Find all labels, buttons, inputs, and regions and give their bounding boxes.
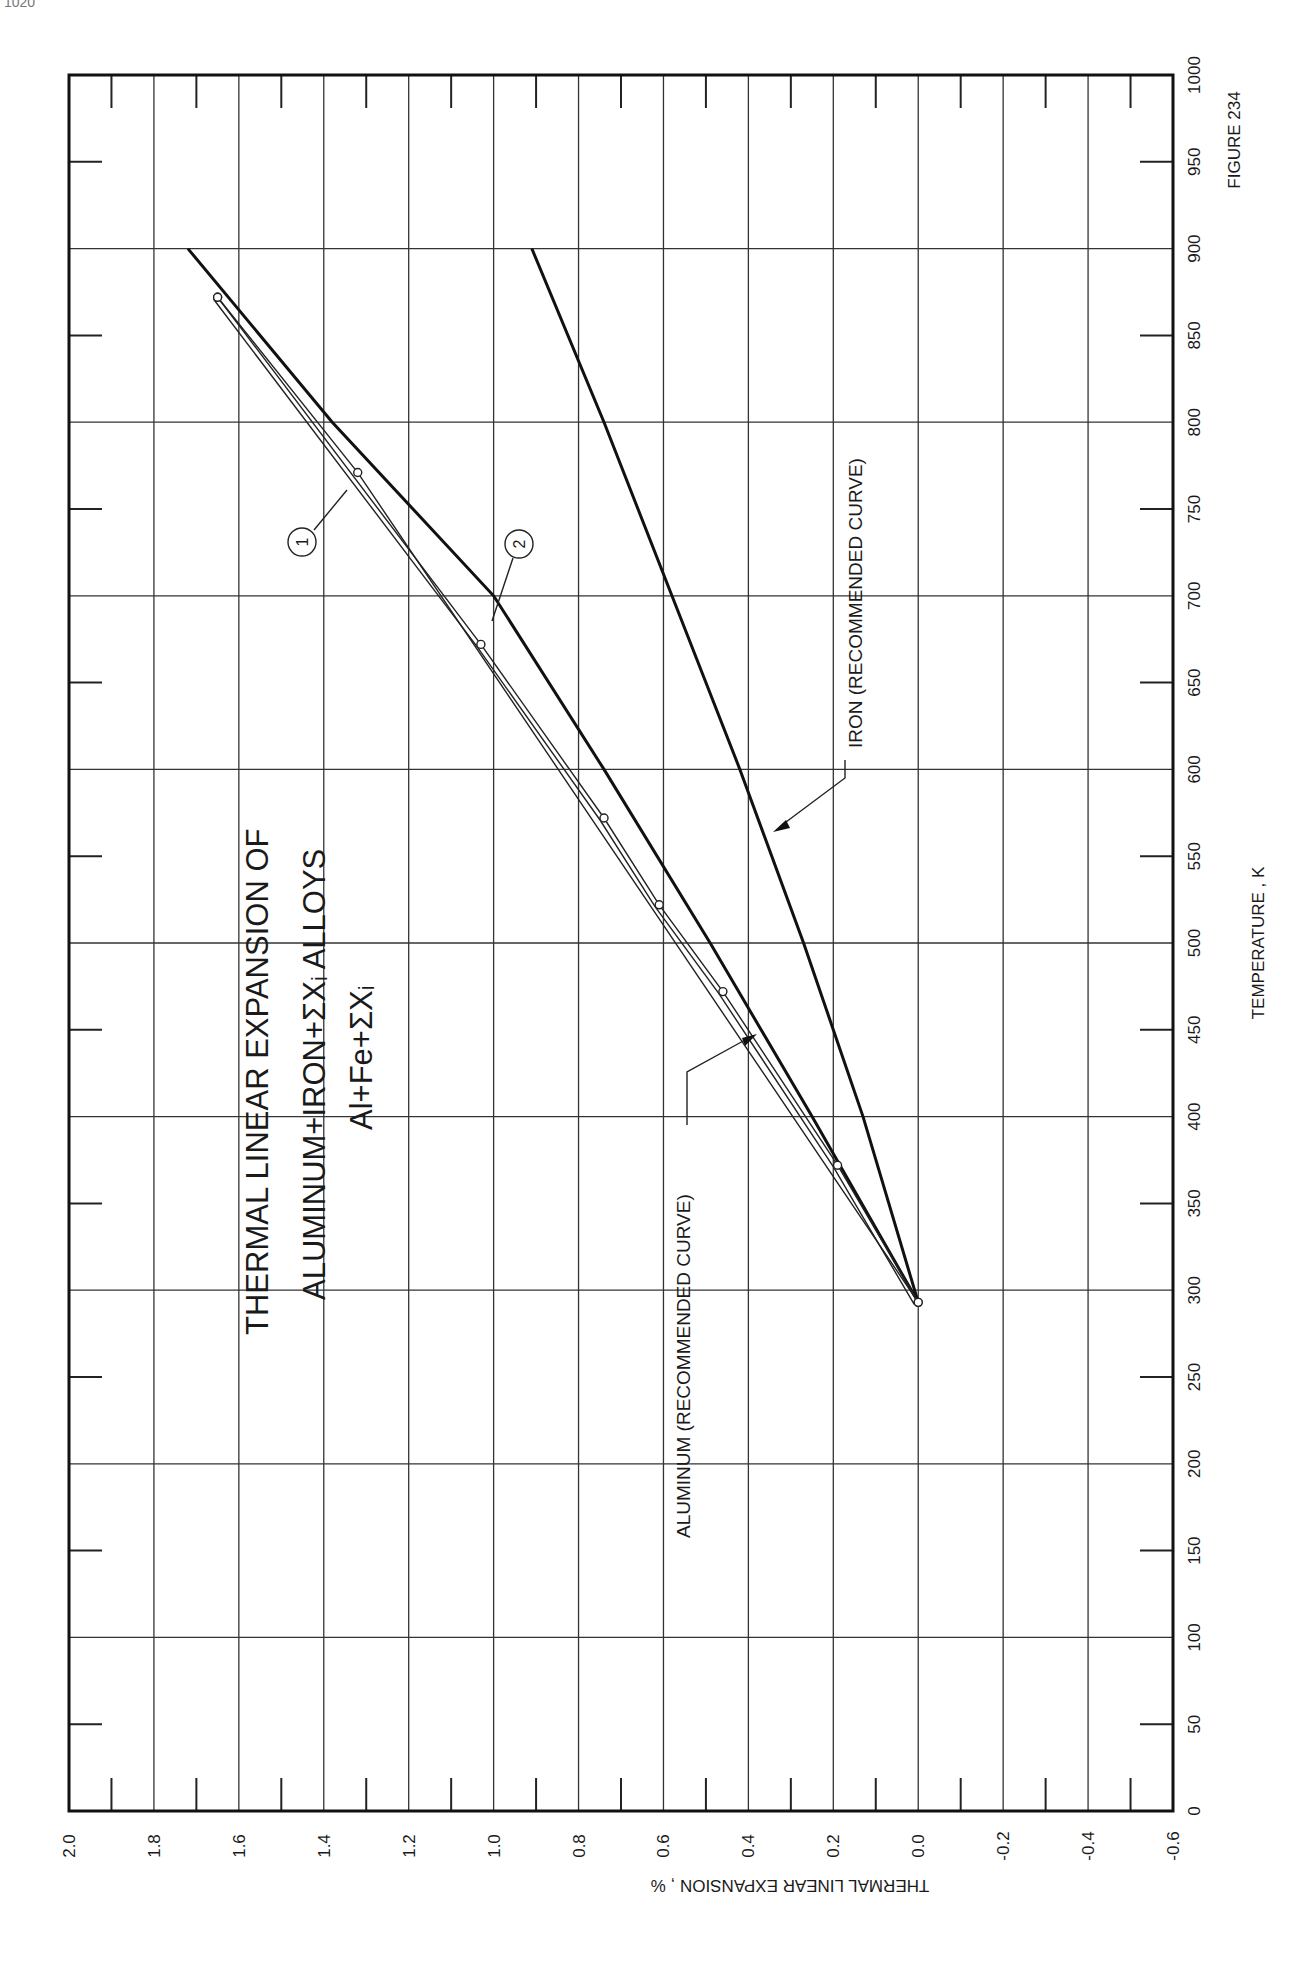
x-tick-label: 600	[1185, 755, 1204, 783]
data-point-marker	[655, 901, 663, 909]
x-tick-label: 900	[1185, 234, 1204, 262]
x-tick-label: 300	[1185, 1276, 1204, 1304]
x-tick-label: 50	[1185, 1715, 1204, 1734]
curve-2-callout: 2	[492, 530, 533, 621]
thermal-expansion-chart: 0501001502002503003504004505005506006507…	[0, 0, 1307, 1968]
y-tick-label: 0.4	[739, 1834, 758, 1858]
x-tick-label: 950	[1185, 148, 1204, 176]
figure-label: FIGURE 234	[1225, 91, 1244, 188]
x-tick-label: 650	[1185, 668, 1204, 696]
x-tick-label: 550	[1185, 842, 1204, 870]
x-tick-label: 100	[1185, 1623, 1204, 1651]
data-point-marker	[914, 1298, 922, 1306]
y-tick-label: 1.8	[145, 1834, 164, 1858]
data-point-marker	[600, 814, 608, 822]
x-tick-label: 700	[1185, 582, 1204, 610]
y-tick-label: -0.4	[1079, 1831, 1098, 1860]
x-tick-label: 400	[1185, 1102, 1204, 1130]
x-tick-label: 250	[1185, 1363, 1204, 1391]
iron-curve-label: IRON (RECOMMENDED CURVE)	[845, 458, 866, 748]
y-tick-label: 1.2	[400, 1834, 419, 1858]
data-point-marker	[719, 988, 727, 996]
data-point-marker	[354, 469, 362, 477]
x-tick-label: 150	[1185, 1536, 1204, 1564]
title-line-2: ALUMINUM+IRON+ΣXᵢ ALLOYS	[297, 849, 332, 1300]
aluminum-curve-label: ALUMINUM (RECOMMENDED CURVE)	[673, 1194, 694, 1538]
y-tick-label: 1.6	[230, 1834, 249, 1858]
x-tick-label: 0	[1185, 1806, 1204, 1815]
data-point-marker	[477, 640, 485, 648]
x-tick-label: 350	[1185, 1189, 1204, 1217]
y-tick-label: 0.8	[570, 1834, 589, 1858]
y-tick-label: 0.2	[824, 1834, 843, 1858]
y-tick-label: -0.6	[1164, 1831, 1183, 1860]
x-tick-label: 800	[1185, 408, 1204, 436]
grid-lines	[69, 75, 1173, 1811]
svg-text:1: 1	[294, 537, 311, 546]
axis-labels: 0501001502002503003504004505005506006507…	[60, 56, 1204, 1861]
title-line-3: Al+Fe+ΣXᵢ	[344, 985, 379, 1130]
curve-iron-recommended-curve	[532, 249, 918, 1303]
data-point-marker	[834, 1161, 842, 1169]
y-tick-label: 2.0	[60, 1834, 79, 1858]
y-tick-label: 1.0	[485, 1834, 504, 1858]
y-tick-label: -0.2	[994, 1831, 1013, 1860]
x-tick-label: 1000	[1185, 56, 1204, 94]
x-tick-label: 450	[1185, 1016, 1204, 1044]
y-axis-title: THERMAL LINEAR EXPANSION , %	[651, 1876, 930, 1895]
x-tick-label: 500	[1185, 929, 1204, 957]
aluminum-leader-line	[687, 1040, 745, 1125]
data-point-marker	[214, 293, 222, 301]
y-tick-label: 1.4	[315, 1834, 334, 1858]
title-line-1: THERMAL LINEAR EXPANSION OF	[240, 829, 275, 1335]
x-axis-title: TEMPERATURE , K	[1249, 866, 1268, 1019]
curve-1-callout: 1	[288, 490, 347, 556]
y-tick-label: 0.6	[654, 1834, 673, 1858]
x-tick-label: 200	[1185, 1450, 1204, 1478]
svg-text:2: 2	[511, 539, 528, 548]
x-tick-label: 750	[1185, 495, 1204, 523]
x-tick-label: 850	[1185, 321, 1204, 349]
y-tick-label: 0.0	[909, 1834, 928, 1858]
